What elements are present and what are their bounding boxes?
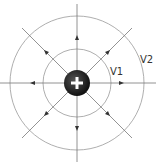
label-v1: V1 [110,66,123,77]
field-diagram: V1 V2 [0,0,162,168]
label-v2: V2 [140,54,153,65]
field-lines-svg [0,0,162,168]
